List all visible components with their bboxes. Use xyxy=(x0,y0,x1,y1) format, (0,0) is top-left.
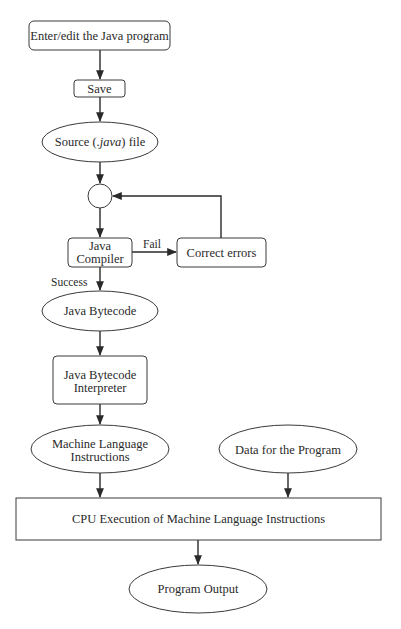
node-output-label: Program Output xyxy=(158,582,239,596)
node-correct-errors: Correct errors xyxy=(177,238,266,267)
node-data-label: Data for the Program xyxy=(235,443,341,457)
node-output: Program Output xyxy=(129,565,267,613)
node-junction xyxy=(88,184,112,208)
node-save-label: Save xyxy=(87,82,112,96)
node-data: Data for the Program xyxy=(219,425,357,473)
node-correct-label: Correct errors xyxy=(187,246,257,260)
node-enter-label: Enter/edit the Java program xyxy=(30,29,169,43)
node-interpreter-label-line2: Interpreter xyxy=(74,381,128,395)
edge-correct-junction xyxy=(113,196,221,238)
node-interpreter-label-line1: Java Bytecode xyxy=(64,368,137,382)
node-cpu: CPU Execution of Machine Language Instru… xyxy=(16,498,381,540)
node-machine-language: Machine Language Instructions xyxy=(31,425,169,473)
node-bytecode: Java Bytecode xyxy=(42,291,158,331)
node-machine-label-line1: Machine Language xyxy=(52,437,149,451)
node-cpu-label: CPU Execution of Machine Language Instru… xyxy=(72,512,325,526)
node-save: Save xyxy=(74,80,125,97)
node-compiler-label-line1: Java xyxy=(89,239,112,253)
node-compiler-label-line2: Compiler xyxy=(76,252,124,266)
node-source-label: Source (.java) file xyxy=(55,135,146,149)
flowchart: Fail Success Enter/edit the Java program… xyxy=(0,0,401,629)
node-machine-label-line2: Instructions xyxy=(70,450,129,464)
edge-label-fail: Fail xyxy=(143,238,161,250)
node-bytecode-label: Java Bytecode xyxy=(64,304,137,318)
edge-label-success: Success xyxy=(51,276,88,288)
node-interpreter: Java Bytecode Interpreter xyxy=(53,356,147,404)
node-enter: Enter/edit the Java program xyxy=(29,21,170,50)
node-source: Source (.java) file xyxy=(42,122,158,162)
node-compiler: Java Compiler xyxy=(68,238,132,267)
